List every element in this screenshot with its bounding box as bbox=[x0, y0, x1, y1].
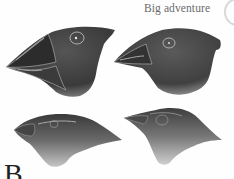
page-number-circle bbox=[224, 0, 234, 26]
book-page: Big adventure bbox=[0, 0, 234, 179]
running-header: Big adventure bbox=[144, 2, 210, 14]
finch-large-beak-illustration bbox=[0, 22, 120, 107]
finch-small-beak-illustration bbox=[10, 108, 125, 170]
finch-medium-beak-illustration bbox=[112, 26, 227, 106]
finch-slender-beak-illustration bbox=[122, 104, 227, 170]
chapter-drop-cap: B bbox=[4, 160, 23, 179]
